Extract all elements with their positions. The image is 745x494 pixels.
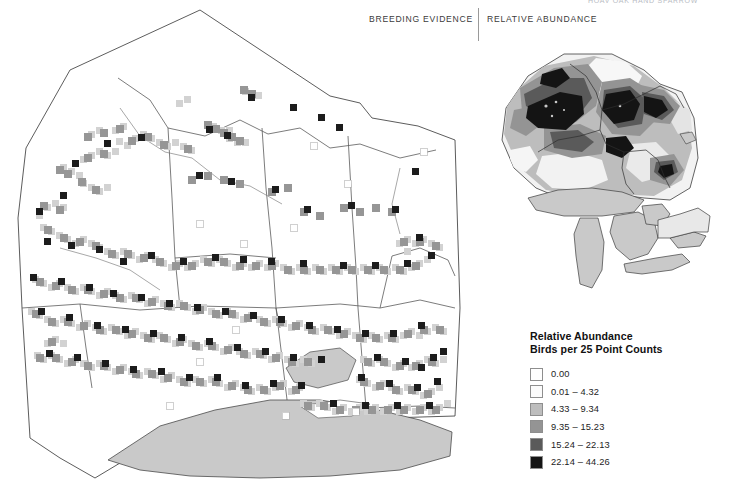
legend-swatch	[530, 403, 543, 416]
breeding-evidence-map[interactable]	[0, 8, 470, 488]
legend-label: 0.00	[551, 369, 570, 379]
legend-swatch	[530, 385, 543, 398]
atlas-species-page: HOAV OAK HAND SPARROW BREEDING EVIDENCE …	[0, 0, 745, 494]
legend-label: 0.01 – 4.32	[551, 387, 599, 397]
legend-row: 22.14 – 44.26	[530, 453, 730, 471]
legend-items: 0.00 0.01 – 4.32 4.33 – 9.34 9.35 – 15.2…	[530, 365, 730, 471]
legend-swatch	[530, 368, 543, 381]
relative-abundance-map[interactable]	[484, 48, 716, 320]
legend-title: Relative Abundance Birds per 25 Point Co…	[530, 330, 730, 356]
legend-row: 9.35 – 15.23	[530, 418, 730, 436]
legend-row: 0.01 – 4.32	[530, 383, 730, 401]
legend-row: 4.33 – 9.34	[530, 401, 730, 419]
legend-title-line1: Relative Abundance	[530, 330, 730, 343]
cut-off-species-title: HOAV OAK HAND SPARROW	[548, 0, 738, 4]
legend-label: 15.24 – 22.13	[551, 440, 610, 450]
map-legend: Relative Abundance Birds per 25 Point Co…	[530, 330, 730, 471]
legend-label: 9.35 – 15.23	[551, 422, 605, 432]
legend-swatch	[530, 420, 543, 433]
legend-row: 15.24 – 22.13	[530, 436, 730, 454]
legend-label: 22.14 – 44.26	[551, 457, 610, 467]
legend-title-line2: Birds per 25 Point Counts	[530, 343, 730, 356]
legend-swatch	[530, 438, 543, 451]
legend-swatch	[530, 456, 543, 469]
header-divider	[478, 8, 479, 41]
relative-abundance-label: RELATIVE ABUNDANCE	[487, 14, 597, 24]
legend-label: 4.33 – 9.34	[551, 404, 599, 414]
legend-row: 0.00	[530, 365, 730, 383]
